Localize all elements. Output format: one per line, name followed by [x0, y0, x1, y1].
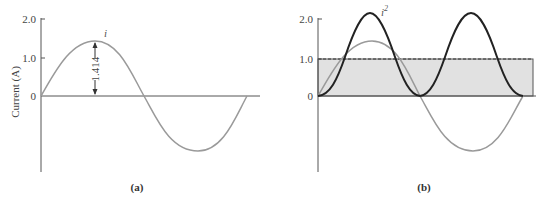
tick-label-0: 0	[31, 90, 37, 102]
tick-label-2: 2.0	[22, 13, 36, 25]
tick-label-1: 1.0	[22, 52, 36, 64]
figure-canvas: 2.0 1.0 0 Current (A) 1.414 i (a) 2.0 1.…	[0, 0, 542, 206]
panel-a: 2.0 1.0 0 Current (A) 1.414 i (a)	[9, 13, 260, 194]
arrow-head-up	[93, 42, 98, 48]
y-axis-title: Current (A)	[9, 66, 22, 118]
panel-b: 2.0 1.0 0 i2 (b)	[299, 4, 536, 194]
caption-a: (a)	[131, 181, 144, 194]
curve-label-i-a: i	[104, 27, 107, 39]
tick-label-0-b: 0	[308, 90, 314, 102]
arrow-head-down	[93, 89, 98, 95]
curve-label-i-squared: i2	[381, 4, 388, 18]
caption-b: (b)	[417, 181, 431, 194]
tick-label-1-b: 1.0	[299, 53, 313, 65]
tick-label-2-b: 2.0	[299, 13, 313, 25]
amplitude-label: 1.414	[89, 56, 101, 81]
